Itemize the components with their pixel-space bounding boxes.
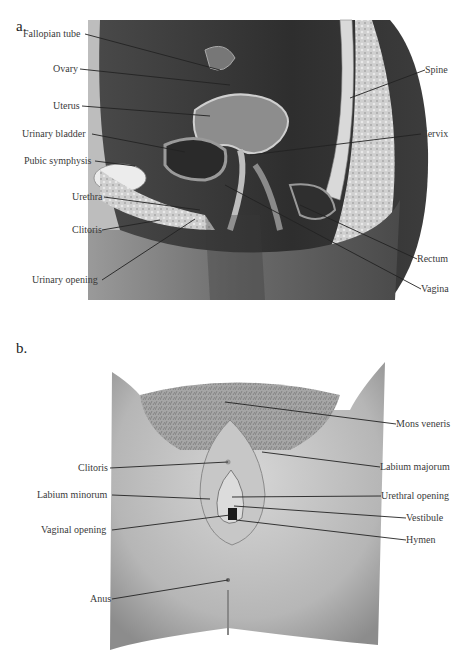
label-vaginal-opening: Vaginal opening <box>41 524 106 536</box>
label-rectum: Rectum <box>417 253 448 265</box>
label-urinary-opening: Urinary opening <box>32 274 98 286</box>
label-clitoris-a: Clitoris <box>72 224 102 236</box>
label-cervix: Cervix <box>421 128 448 140</box>
label-uterus: Uterus <box>53 100 80 112</box>
label-clitoris-b: Clitoris <box>78 462 108 474</box>
label-vestibule: Vestibule <box>406 512 443 524</box>
label-hymen: Hymen <box>406 534 435 546</box>
label-labium-majorum: Labium majorum <box>380 461 450 473</box>
label-pubic-symphysis: Pubic symphysis <box>24 155 92 167</box>
sagittal-section-drawing <box>88 20 428 300</box>
label-spine: Spine <box>425 64 448 76</box>
label-labium-minorum: Labium minorum <box>37 489 107 501</box>
label-urinary-bladder: Urinary bladder <box>22 128 86 140</box>
label-urethral-opening: Urethral opening <box>381 490 449 502</box>
label-anus: Anus <box>90 593 111 605</box>
label-ovary: Ovary <box>53 63 78 75</box>
label-urethra: Urethra <box>72 191 103 203</box>
label-mons-veneris: Mons veneris <box>396 418 450 430</box>
panel-b-letter: b. <box>16 340 27 357</box>
label-vagina: Vagina <box>421 283 449 295</box>
label-fallopian-tube: Fallopian tube <box>23 28 81 40</box>
